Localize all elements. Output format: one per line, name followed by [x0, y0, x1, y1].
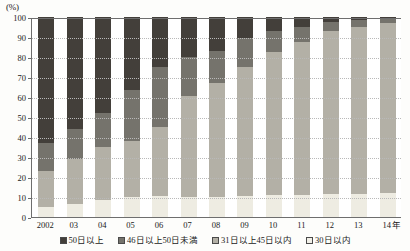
x-axis-tick-label: 09 — [230, 221, 258, 230]
bar-segment — [323, 22, 339, 31]
gridline — [32, 178, 401, 179]
y-axis-tick-label: 0 — [0, 214, 26, 223]
y-axis-tick-label: 80 — [0, 54, 26, 63]
bar-segment — [323, 31, 339, 194]
x-axis-tick-label: 04 — [88, 221, 116, 230]
gridline — [32, 118, 401, 119]
gridline — [32, 78, 401, 79]
y-axis-tick-mark — [28, 158, 31, 159]
chart-legend: 50日以上46日以上50日未満31日以上45日以内30日以内 — [0, 236, 410, 245]
y-axis-tick-label: 30 — [0, 154, 26, 163]
y-axis-tick-mark — [28, 38, 31, 39]
bar-segment — [237, 17, 253, 38]
legend-swatch-icon — [118, 237, 125, 244]
x-axis-tick-label: 13 — [344, 221, 372, 230]
bar-segment — [38, 171, 54, 207]
gridline — [32, 138, 401, 139]
bar-segment — [294, 27, 310, 42]
bar-segment — [124, 17, 140, 90]
x-axis-tick-label: 12 — [316, 221, 344, 230]
x-axis-tick-label: 10 — [259, 221, 287, 230]
y-axis-tick-mark — [28, 98, 31, 99]
y-axis-tick-label: 40 — [0, 134, 26, 143]
bar-segment — [380, 193, 396, 217]
bar-segment — [237, 196, 253, 217]
bar-segment — [209, 17, 225, 51]
y-axis-tick-label: 10 — [0, 194, 26, 203]
legend-label: 50日以上 — [69, 236, 105, 245]
legend-label: 30日以内 — [315, 236, 351, 245]
bar-segment — [237, 67, 253, 196]
y-axis-tick-mark — [28, 218, 31, 219]
bar-segment — [67, 204, 83, 217]
y-axis-tick-label: 70 — [0, 74, 26, 83]
y-axis-tick-mark — [28, 178, 31, 179]
bar-segment — [266, 17, 282, 31]
y-axis-unit-label: (%) — [6, 2, 19, 12]
bar-segment — [152, 17, 168, 67]
x-axis-tick-label: 05 — [116, 221, 144, 230]
legend-item[interactable]: 50日以上 — [60, 236, 105, 245]
y-axis-tick-mark — [28, 138, 31, 139]
legend-label: 46日以上50日未満 — [127, 236, 198, 245]
legend-swatch-icon — [306, 237, 313, 244]
bar-segment — [124, 141, 140, 197]
bar-segment — [181, 96, 197, 197]
legend-item[interactable]: 46日以上50日未満 — [118, 236, 198, 245]
bar-segment — [67, 17, 83, 129]
bar-segment — [152, 196, 168, 217]
chart-root: (%) 1009080706050403020100 2002030405060… — [0, 0, 410, 251]
y-axis-tick-mark — [28, 118, 31, 119]
y-axis-tick-label: 60 — [0, 94, 26, 103]
bar-segment — [209, 83, 225, 197]
gridline — [32, 18, 401, 19]
gridline — [32, 98, 401, 99]
bar-segment — [95, 200, 111, 217]
gridline — [32, 58, 401, 59]
plot-area — [31, 18, 401, 218]
x-axis-tick-label: 07 — [173, 221, 201, 230]
bar-segment — [67, 129, 83, 159]
y-axis-tick-mark — [28, 58, 31, 59]
x-axis-tick-label: 2002 — [31, 221, 59, 230]
x-axis-tick-label: 03 — [59, 221, 87, 230]
bar-segment — [266, 31, 282, 52]
bar-segment — [124, 197, 140, 217]
gridline — [32, 198, 401, 199]
y-axis-tick-mark — [28, 198, 31, 199]
bar-segment — [181, 17, 197, 57]
y-axis-tick-label: 20 — [0, 174, 26, 183]
y-axis-tick-mark — [28, 18, 31, 19]
x-axis-tick-label: 11 — [287, 221, 315, 230]
x-axis-tick-label: 06 — [145, 221, 173, 230]
y-axis-tick-label: 50 — [0, 114, 26, 123]
bar-segment — [38, 207, 54, 217]
gridline — [32, 38, 401, 39]
bar-segment — [181, 197, 197, 217]
y-axis-tick-label: 90 — [0, 34, 26, 43]
bar-segment — [181, 57, 197, 96]
bar-segment — [209, 197, 225, 217]
y-axis-tick-mark — [28, 78, 31, 79]
bar-segment — [380, 23, 396, 193]
bar-segment — [95, 147, 111, 200]
x-axis-tick-label: 08 — [202, 221, 230, 230]
gridline — [32, 158, 401, 159]
bar-segment — [380, 19, 396, 23]
legend-swatch-icon — [60, 237, 67, 244]
bar-segment — [351, 20, 367, 27]
bar-segment — [237, 38, 253, 67]
bar-segment — [38, 17, 54, 143]
x-axis-unit-label: 年 — [392, 221, 401, 230]
legend-item[interactable]: 31日以上45日以内 — [212, 236, 292, 245]
legend-item[interactable]: 30日以内 — [306, 236, 351, 245]
y-axis-tick-label: 100 — [0, 14, 26, 23]
bar-segment — [351, 27, 367, 194]
legend-label: 31日以上45日以内 — [221, 236, 292, 245]
bar-segment — [266, 52, 282, 195]
bar-segment — [38, 143, 54, 171]
legend-swatch-icon — [212, 237, 219, 244]
